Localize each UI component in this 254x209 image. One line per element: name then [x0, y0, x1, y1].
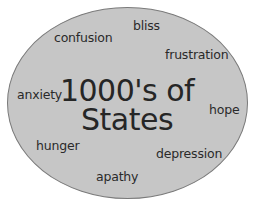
state-label-hunger: hunger [36, 140, 79, 153]
title-line-2: States [0, 105, 254, 135]
state-label-depression: depression [156, 148, 222, 161]
state-label-confusion: confusion [54, 32, 113, 45]
state-label-frustration: frustration [165, 49, 228, 62]
state-label-apathy: apathy [96, 171, 138, 184]
state-label-bliss: bliss [133, 20, 160, 33]
diagram-canvas: bliss confusion frustration anxiety hope… [0, 0, 254, 209]
